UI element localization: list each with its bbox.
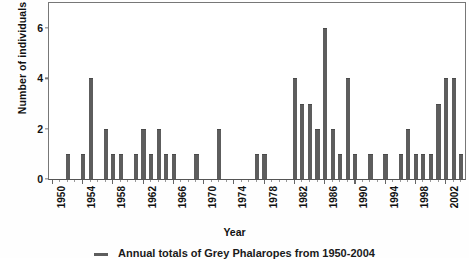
x-tick-label: 2002: [449, 186, 460, 208]
x-minor-tick: [67, 180, 68, 182]
bar: [194, 154, 198, 179]
y-axis-title: Number of individuals: [16, 0, 28, 138]
x-minor-tick: [317, 180, 318, 182]
x-minor-tick: [339, 180, 340, 182]
bar: [331, 129, 335, 179]
x-minor-tick: [400, 180, 401, 182]
x-minor-tick: [362, 180, 363, 182]
x-minor-tick: [392, 180, 393, 182]
plot-area: 0246: [48, 2, 466, 180]
x-tick-mark: [233, 180, 234, 184]
bar: [141, 129, 145, 179]
x-tick-label: 1982: [298, 186, 309, 208]
x-minor-tick: [127, 180, 128, 182]
x-minor-tick: [422, 180, 423, 182]
bar: [217, 129, 221, 179]
x-tick-label: 1950: [56, 186, 67, 208]
bar: [157, 129, 161, 179]
y-tick-mark: [45, 78, 49, 79]
x-minor-tick: [453, 180, 454, 182]
x-minor-tick: [332, 180, 333, 182]
figure-caption: Annual totals of Grey Phalaropes from 19…: [0, 247, 469, 259]
bar: [323, 28, 327, 179]
bar: [300, 104, 304, 179]
x-minor-tick: [279, 180, 280, 182]
x-minor-tick: [438, 180, 439, 182]
bar: [308, 104, 312, 179]
bar: [104, 129, 108, 179]
x-minor-tick: [407, 180, 408, 182]
x-minor-tick: [241, 180, 242, 182]
x-tick-label: 1978: [268, 186, 279, 208]
x-minor-tick: [195, 180, 196, 182]
x-minor-tick: [377, 180, 378, 182]
bar: [429, 154, 433, 179]
bar: [444, 78, 448, 179]
y-tick-mark: [45, 27, 49, 28]
x-minor-tick: [74, 180, 75, 182]
x-tick-label: 1998: [419, 186, 430, 208]
bar: [134, 154, 138, 179]
x-tick-mark: [173, 180, 174, 184]
bar: [353, 154, 357, 179]
x-tick-label: 1970: [207, 186, 218, 208]
x-minor-tick: [430, 180, 431, 182]
bar: [172, 154, 176, 179]
x-tick-label: 1962: [147, 186, 158, 208]
x-tick-label: 1966: [177, 186, 188, 208]
x-minor-tick: [158, 180, 159, 182]
y-tick-mark: [45, 128, 49, 129]
x-minor-tick: [165, 180, 166, 182]
x-tick-label: 1958: [116, 186, 127, 208]
x-minor-tick: [271, 180, 272, 182]
x-minor-tick: [120, 180, 121, 182]
bar: [315, 129, 319, 179]
bar: [414, 154, 418, 179]
bar: [164, 154, 168, 179]
bar: [421, 154, 425, 179]
bar: [346, 78, 350, 179]
bar: [66, 154, 70, 179]
x-minor-tick: [256, 180, 257, 182]
x-tick-label: 1974: [237, 186, 248, 208]
x-tick-mark: [324, 180, 325, 184]
x-minor-tick: [218, 180, 219, 182]
bar: [149, 154, 153, 179]
x-minor-tick: [286, 180, 287, 182]
x-tick-mark: [203, 180, 204, 184]
x-tick-mark: [294, 180, 295, 184]
x-minor-tick: [105, 180, 106, 182]
x-minor-tick: [188, 180, 189, 182]
bar: [383, 154, 387, 179]
x-minor-tick: [347, 180, 348, 182]
x-tick-label: 1990: [358, 186, 369, 208]
x-tick-mark: [415, 180, 416, 184]
x-tick-mark: [112, 180, 113, 184]
x-tick-mark: [264, 180, 265, 184]
bar: [459, 154, 463, 179]
bar: [89, 78, 93, 179]
x-minor-tick: [90, 180, 91, 182]
bar: [452, 78, 456, 179]
x-minor-tick: [150, 180, 151, 182]
x-minor-tick: [248, 180, 249, 182]
x-minor-tick: [460, 180, 461, 182]
x-axis: 1950195419581962196619701974197819821986…: [48, 180, 466, 226]
x-tick-mark: [385, 180, 386, 184]
x-tick-label: 1986: [328, 186, 339, 208]
x-minor-tick: [97, 180, 98, 182]
bar: [338, 154, 342, 179]
x-minor-tick: [211, 180, 212, 182]
bar: [262, 154, 266, 179]
x-minor-tick: [369, 180, 370, 182]
x-tick-mark: [445, 180, 446, 184]
x-tick-mark: [52, 180, 53, 184]
x-axis-title: Year: [0, 226, 469, 238]
x-minor-tick: [301, 180, 302, 182]
x-tick-mark: [82, 180, 83, 184]
bar: [368, 154, 372, 179]
x-tick-mark: [354, 180, 355, 184]
bar: [111, 154, 115, 179]
x-tick-label: 1994: [389, 186, 400, 208]
